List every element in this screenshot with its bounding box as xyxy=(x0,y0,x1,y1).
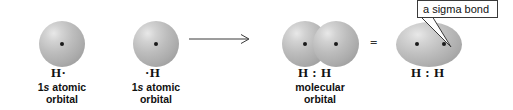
molecular-orbital-left-nucleus xyxy=(303,42,307,46)
right-hydrogen-nucleus xyxy=(154,42,158,46)
left-caption-suffix: atomic xyxy=(49,81,86,93)
molecular-orbital-symbol: H : H xyxy=(298,65,332,81)
left-hydrogen-symbol: H· xyxy=(51,65,66,81)
molecular-caption-line2: orbital xyxy=(304,93,336,105)
reaction-arrow-icon xyxy=(188,30,254,48)
left-caption-line1: 1s atomic xyxy=(38,81,86,93)
merged-orbital-symbol: H : H xyxy=(411,65,445,81)
sigma-bond-callout: a sigma bond xyxy=(417,0,498,18)
sigma-bond-diagram: H· 1s atomic orbital ·H 1s atomic orbita… xyxy=(0,0,513,110)
molecular-caption-line1: molecular xyxy=(295,81,345,93)
left-hydrogen-nucleus xyxy=(60,42,64,46)
right-caption-line2: orbital xyxy=(140,93,172,105)
right-caption-line1: 1s atomic xyxy=(132,81,180,93)
equals-sign: = xyxy=(370,35,377,51)
molecular-orbital-right-nucleus xyxy=(334,42,338,46)
callout-pointer-icon xyxy=(418,16,452,48)
left-hydrogen-caption: 1s atomic orbital xyxy=(22,81,102,105)
right-caption-suffix: atomic xyxy=(143,81,180,93)
right-hydrogen-caption: 1s atomic orbital xyxy=(116,81,196,105)
molecular-orbital-caption: molecular orbital xyxy=(280,81,360,105)
left-caption-line2: orbital xyxy=(46,93,78,105)
right-hydrogen-symbol: ·H xyxy=(145,65,160,81)
